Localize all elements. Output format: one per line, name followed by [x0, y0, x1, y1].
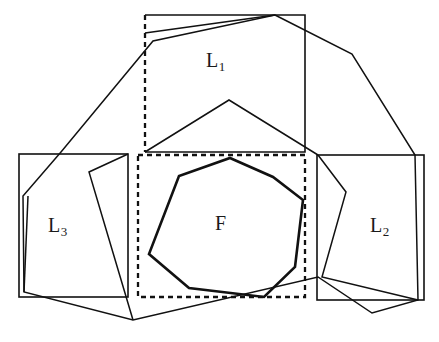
label-l3-base: L: [48, 214, 60, 236]
label-l2: L2: [370, 215, 389, 238]
inner-chain-left-wedge: [89, 154, 133, 320]
label-l1-subscript: 1: [218, 59, 225, 74]
label-l1-base: L: [206, 49, 218, 71]
geometry-figure: L1 L2 L3 F: [0, 0, 439, 342]
inner-chain-right-wedge: [318, 155, 418, 300]
inner-chain-left-spur: [24, 196, 28, 292]
box-l3: [19, 154, 128, 297]
label-l3-subscript: 3: [60, 224, 67, 239]
label-l1: L1: [206, 50, 225, 73]
label-f: F: [215, 213, 226, 233]
label-l2-subscript: 2: [382, 224, 389, 239]
label-l2-base: L: [370, 214, 382, 236]
label-l3: L3: [48, 215, 67, 238]
label-f-base: F: [215, 212, 226, 234]
inner-chain-middle: [145, 100, 318, 155]
inner-chain-upper: [145, 15, 275, 33]
